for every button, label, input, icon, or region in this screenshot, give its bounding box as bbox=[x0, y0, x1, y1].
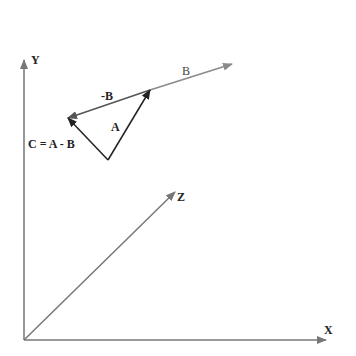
vector-diagram: Y X Z B -B A C = A - B bbox=[0, 0, 356, 356]
vector-neg-b-label: -B bbox=[101, 89, 113, 103]
vector-a-label: A bbox=[111, 120, 120, 134]
vector-b-label: B bbox=[182, 64, 190, 78]
vector-b bbox=[150, 64, 232, 90]
z-axis bbox=[24, 192, 175, 340]
y-axis-label: Y bbox=[31, 53, 40, 67]
x-axis-label: X bbox=[324, 323, 333, 337]
vector-c-label: C = A - B bbox=[28, 137, 75, 151]
z-axis-label: Z bbox=[177, 190, 185, 204]
